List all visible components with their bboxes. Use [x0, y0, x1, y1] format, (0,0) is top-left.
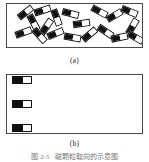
magnetic-particle [64, 33, 82, 43]
particle-light-half [73, 35, 80, 41]
particle-light-half [71, 11, 79, 17]
particle-light-half [135, 36, 143, 44]
magnetic-particle [46, 27, 64, 40]
figure-caption-number: 图 2-5 [31, 153, 49, 161]
particle-light-half [38, 34, 46, 42]
particle-light-half [54, 17, 61, 25]
magnetic-particle [73, 19, 91, 28]
particle-light-half [43, 6, 51, 13]
figure-container: (a) (b) 图 2-5磁颗粒取向的示意图 [0, 0, 149, 162]
magnetic-particle [14, 26, 32, 38]
magnetic-particle [33, 5, 51, 17]
particle-dark-half [13, 101, 23, 107]
particle-dark-half [13, 77, 23, 83]
particle-light-half [23, 101, 31, 107]
magnetic-particle [126, 30, 143, 45]
magnetic-particle [12, 76, 32, 84]
panel-b-label: (b) [0, 139, 149, 148]
particle-dark-half [13, 125, 23, 131]
panel-a-random-orientation [6, 3, 143, 48]
magnetic-particle [12, 100, 32, 108]
particle-light-half [23, 77, 31, 83]
particle-light-half [23, 125, 31, 131]
magnetic-particle [12, 124, 32, 132]
figure-caption-text: 磁颗粒取向的示意图 [55, 153, 118, 161]
magnetic-particle [120, 5, 138, 18]
figure-caption: 图 2-5磁颗粒取向的示意图 [0, 152, 149, 162]
panel-a-label: (a) [0, 56, 149, 65]
magnetic-particle [61, 8, 79, 19]
particle-light-half [129, 10, 137, 17]
particle-light-half [55, 28, 63, 35]
particle-light-half [82, 20, 89, 26]
panel-b-aligned-orientation [6, 74, 143, 134]
particle-grid-aligned [7, 75, 142, 133]
